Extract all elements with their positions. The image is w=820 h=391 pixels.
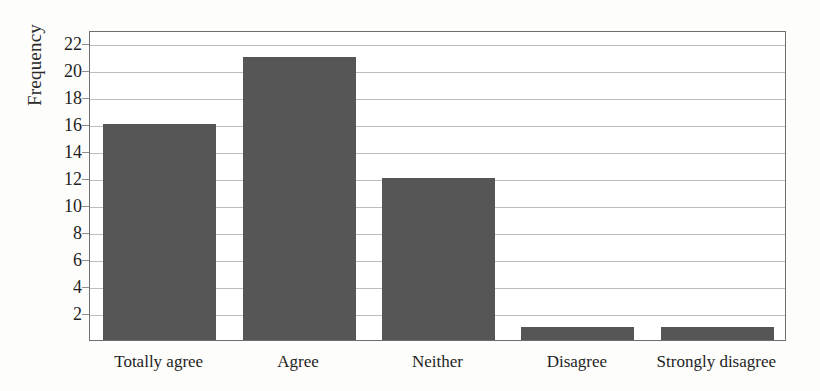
x-axis-tick-label: Strongly disagree: [657, 352, 776, 372]
y-axis-tick-label: 6: [46, 251, 82, 269]
bar[interactable]: [103, 124, 216, 340]
x-axis-tick-label: Totally agree: [114, 352, 203, 372]
y-axis-tick-mark: [82, 71, 89, 72]
y-axis-tick-mark: [82, 179, 89, 180]
y-axis-tick-mark: [82, 233, 89, 234]
y-axis-tick-mark: [82, 98, 89, 99]
plot-area: [89, 31, 786, 341]
y-axis-tick-mark: [82, 152, 89, 153]
y-axis-tick-label: 14: [46, 143, 82, 161]
bars-layer: [90, 32, 785, 340]
bar[interactable]: [661, 327, 774, 340]
y-axis-tick-mark: [82, 125, 89, 126]
x-axis-tick-label-group: Totally agreeAgreeNeitherDisagreeStrongl…: [89, 352, 786, 380]
y-axis-tick-mark: [82, 314, 89, 315]
y-axis-tick-label: 2: [46, 305, 82, 323]
y-axis-tick-label: 22: [46, 35, 82, 53]
x-axis-tick-label: Agree: [277, 352, 319, 372]
x-axis-tick-label: Disagree: [547, 352, 607, 372]
y-axis-tick-label: 20: [46, 62, 82, 80]
y-axis-tick-mark: [82, 260, 89, 261]
bar[interactable]: [521, 327, 634, 340]
bar[interactable]: [243, 57, 356, 340]
y-axis-tick-label: 16: [46, 116, 82, 134]
y-axis-tick-label: 4: [46, 278, 82, 296]
bar[interactable]: [382, 178, 495, 340]
y-axis-tick-mark: [82, 206, 89, 207]
y-axis-tick-label: 8: [46, 224, 82, 242]
bar-chart-figure: Frequency 246810121416182022 Totally agr…: [0, 0, 820, 391]
x-axis-tick-label: Neither: [412, 352, 463, 372]
y-axis-tick-label: 10: [46, 197, 82, 215]
y-axis-tick-mark: [82, 44, 89, 45]
y-axis-tick-label: 18: [46, 89, 82, 107]
y-axis-tick-label: 12: [46, 170, 82, 188]
y-axis-tick-label-group: 246810121416182022: [46, 31, 82, 341]
y-axis-tick-mark: [82, 287, 89, 288]
